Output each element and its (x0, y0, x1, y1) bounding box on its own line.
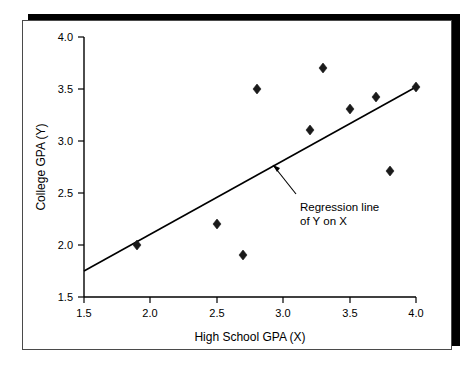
y-tick-label: 1.5 (58, 291, 73, 303)
data-point (239, 250, 247, 260)
callout-line-1: Regression line (300, 201, 379, 213)
data-point (412, 82, 420, 92)
x-tick-label: 2.0 (142, 307, 157, 319)
regression-line (84, 87, 416, 271)
y-tick-label: 4.0 (58, 31, 73, 43)
regression-line-callout: Regression line of Y on X (273, 165, 379, 227)
data-point (372, 92, 380, 102)
y-axis-ticks: 4.0 3.5 3.0 2.5 2.0 1.5 (58, 31, 84, 303)
figure-card: 4.0 3.5 3.0 2.5 2.0 1.5 1.5 2.0 2.5 (22, 20, 452, 350)
x-tick-label: 4.0 (408, 307, 423, 319)
data-points (133, 63, 420, 260)
callout-arrow-head (273, 165, 280, 172)
callout-line-2: of Y on X (300, 215, 347, 227)
data-point (253, 84, 261, 94)
x-axis-ticks: 1.5 2.0 2.5 3.0 3.5 4.0 (76, 297, 423, 319)
y-tick-label: 3.5 (58, 83, 73, 95)
x-tick-label: 3.0 (275, 307, 290, 319)
data-point (306, 125, 314, 135)
y-axis-title: College GPA (Y) (34, 123, 48, 210)
data-point (133, 240, 141, 250)
x-tick-label: 1.5 (76, 307, 91, 319)
scatter-plot: 4.0 3.5 3.0 2.5 2.0 1.5 1.5 2.0 2.5 (23, 21, 453, 351)
figure-root: 4.0 3.5 3.0 2.5 2.0 1.5 1.5 2.0 2.5 (0, 0, 470, 374)
y-tick-label: 2.0 (58, 239, 73, 251)
x-axis-title: High School GPA (X) (194, 330, 305, 344)
data-point (386, 166, 394, 176)
data-point (319, 63, 327, 73)
x-tick-label: 2.5 (209, 307, 224, 319)
x-tick-label: 3.5 (342, 307, 357, 319)
data-point (346, 104, 354, 114)
y-tick-label: 3.0 (58, 135, 73, 147)
data-point (213, 219, 221, 229)
y-tick-label: 2.5 (58, 187, 73, 199)
